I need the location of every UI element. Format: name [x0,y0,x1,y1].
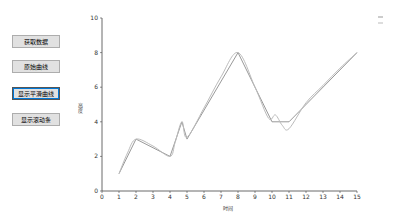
x-tick-label: 8 [236,193,240,200]
y-tick-label: 10 [90,14,98,21]
x-axis-label: 时间 [223,205,233,212]
series-line-1 [119,52,357,173]
x-tick-label: 1 [117,193,121,200]
series-line-0 [119,53,357,174]
x-tick-label: 0 [100,193,104,200]
y-axis-label: 高度 [77,102,83,114]
x-tick-label: 5 [185,193,189,200]
x-tick-label: 11 [285,193,293,200]
y-tick-label: 0 [94,187,98,194]
x-tick-label: 15 [353,193,361,200]
x-tick-label: 7 [219,193,223,200]
y-tick-label: 6 [94,83,98,90]
line-chart: 01234567891011121314150246810时间高度 [0,0,393,222]
x-tick-label: 4 [168,193,172,200]
x-tick-label: 13 [319,193,327,200]
x-tick-label: 10 [268,193,276,200]
y-tick-label: 4 [94,118,98,125]
x-tick-label: 14 [336,193,344,200]
x-tick-label: 2 [134,193,138,200]
x-tick-label: 12 [302,193,310,200]
x-tick-label: 3 [151,193,155,200]
y-tick-label: 8 [94,49,98,56]
x-tick-label: 6 [202,193,206,200]
x-tick-label: 9 [253,193,257,200]
y-tick-label: 2 [94,152,98,159]
